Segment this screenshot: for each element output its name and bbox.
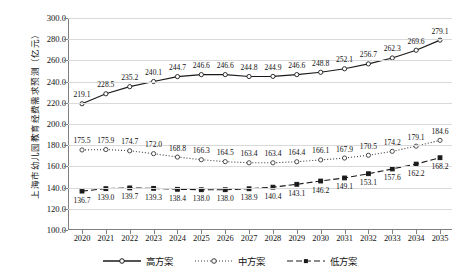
x-axis-tick: 2032 [360, 234, 377, 243]
x-axis-tick: 2022 [121, 234, 138, 243]
legend-marker-1 [195, 256, 233, 266]
data-label: 184.6 [431, 128, 448, 136]
data-point-marker [295, 160, 299, 164]
data-point-marker [414, 162, 418, 166]
data-point-marker [366, 62, 370, 66]
x-axis-tick: 2033 [384, 234, 401, 243]
y-axis-tick: 220.0 [26, 99, 66, 108]
data-label: 172.0 [145, 141, 162, 149]
y-tick-mark [64, 60, 68, 61]
data-point-marker [319, 70, 323, 74]
gridline [68, 60, 452, 61]
data-label: 139.0 [97, 194, 114, 202]
y-tick-mark [64, 230, 68, 231]
data-label: 139.3 [145, 194, 162, 202]
x-axis-tick: 2024 [169, 234, 186, 243]
x-axis-tick: 2025 [193, 234, 210, 243]
y-axis-tick: 120.0 [26, 205, 66, 214]
data-label: 269.6 [408, 38, 425, 46]
data-label: 256.7 [360, 52, 377, 60]
data-point-marker [438, 138, 442, 142]
data-point-marker [175, 155, 179, 159]
x-axis-tick: 2034 [408, 234, 425, 243]
gridline [68, 18, 452, 19]
x-axis-tick: 2028 [265, 234, 282, 243]
data-point-marker [199, 158, 203, 162]
x-axis-tick: 2020 [74, 234, 91, 243]
data-label: 244.7 [169, 64, 186, 72]
data-point-marker [295, 182, 299, 186]
data-label: 246.6 [288, 62, 305, 70]
y-tick-mark [64, 39, 68, 40]
data-point-marker [199, 73, 203, 77]
chart-legend: 高方案中方案低方案 [0, 252, 460, 270]
gridline [68, 209, 452, 210]
data-label: 246.6 [193, 62, 210, 70]
data-label: 163.4 [264, 150, 281, 158]
data-label: 162.2 [408, 170, 425, 178]
y-tick-mark [64, 18, 68, 19]
data-point-marker [80, 189, 84, 193]
y-tick-mark [64, 188, 68, 189]
data-label: 244.9 [264, 64, 281, 72]
data-point-marker [367, 172, 371, 176]
y-axis-tick: 200.0 [26, 120, 66, 129]
data-point-marker [271, 74, 275, 78]
data-point-marker [128, 149, 132, 153]
data-label: 175.5 [73, 138, 90, 146]
data-point-marker [438, 156, 442, 160]
data-label: 157.6 [384, 175, 401, 183]
legend-item-0[interactable]: 高方案 [103, 254, 173, 268]
data-point-marker [295, 73, 299, 77]
data-label: 140.4 [264, 193, 281, 201]
x-axis-tick-labels: 2020202120222023202420252026202720282029… [68, 234, 452, 248]
x-axis-tick: 2023 [145, 234, 162, 243]
data-point-marker [104, 92, 108, 96]
legend-marker-0 [103, 256, 141, 266]
legend-item-1[interactable]: 中方案 [195, 254, 265, 268]
data-point-marker [343, 176, 347, 180]
y-axis-tick: 260.0 [26, 56, 66, 65]
data-label: 164.4 [288, 149, 305, 157]
data-label: 164.5 [217, 149, 234, 157]
data-label: 167.9 [336, 146, 353, 154]
data-point-marker [271, 161, 275, 165]
data-point-marker [104, 147, 108, 151]
data-label: 139.7 [121, 194, 138, 202]
data-label: 138.4 [169, 195, 186, 203]
x-axis-tick: 2026 [217, 234, 234, 243]
y-axis-tick: 160.0 [26, 162, 66, 171]
data-label: 228.5 [97, 81, 114, 89]
x-axis-tick: 2027 [241, 234, 258, 243]
y-tick-mark [64, 82, 68, 83]
data-label: 248.8 [312, 60, 329, 68]
gridline [68, 39, 452, 40]
y-axis-tick: 300.0 [26, 14, 66, 23]
data-point-marker [223, 73, 227, 77]
data-point-marker [247, 161, 251, 165]
legend-item-2[interactable]: 低方案 [287, 254, 357, 268]
data-label: 136.7 [73, 197, 90, 205]
data-label: 240.1 [145, 69, 162, 77]
y-tick-mark [64, 166, 68, 167]
gridline [68, 166, 452, 167]
data-point-marker [152, 152, 156, 156]
data-label: 143.1 [288, 190, 305, 198]
data-label: 149.1 [336, 184, 353, 192]
chart-container: 上海市幼儿园教育经费需求预测（亿元） 100.0120.0140.0160.01… [0, 0, 460, 274]
data-label: 138.9 [241, 194, 258, 202]
data-label: 138.0 [217, 195, 234, 203]
legend-marker-2 [287, 256, 325, 266]
data-label: 246.6 [217, 62, 234, 70]
data-label: 179.1 [408, 134, 425, 142]
data-label: 170.5 [360, 143, 377, 151]
data-label: 174.2 [384, 139, 401, 147]
data-label: 168.8 [169, 145, 186, 153]
x-axis-tick: 2029 [288, 234, 305, 243]
data-point-marker [342, 67, 346, 71]
y-axis-tick: 100.0 [26, 226, 66, 235]
y-axis-tick: 280.0 [26, 35, 66, 44]
data-point-marker [366, 153, 370, 157]
data-label: 244.8 [241, 64, 258, 72]
legend-label-0: 高方案 [146, 254, 173, 268]
